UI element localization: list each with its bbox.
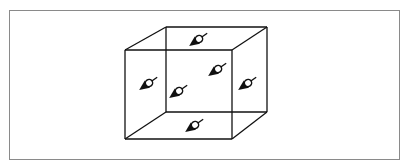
dipole-arrow-icon <box>183 116 206 136</box>
cube-diagram <box>0 0 407 166</box>
dipole-arrow-icon <box>167 82 190 102</box>
dipole-arrow-icon <box>206 60 229 80</box>
cube-edge <box>125 27 166 50</box>
dipole-arrow-icon <box>236 74 259 94</box>
dipole-arrow-icon <box>137 74 160 94</box>
cube-edge <box>232 112 267 139</box>
cube-edge <box>232 27 267 50</box>
cube-edge <box>125 112 166 139</box>
dipole-arrow-icon <box>187 30 210 50</box>
